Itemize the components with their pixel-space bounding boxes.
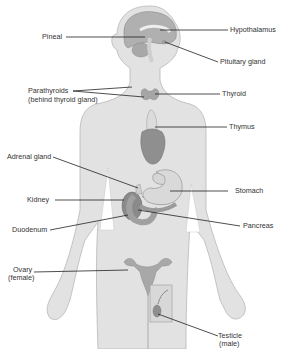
body-illustration xyxy=(0,0,287,349)
label-adrenal-gland: Adrenal gland xyxy=(7,153,51,161)
label-testicle-note: (male) xyxy=(219,340,239,348)
label-stomach: Stomach xyxy=(235,187,263,195)
label-parathyroids-note: (behind thyroid gland) xyxy=(28,96,98,104)
body-silhouette xyxy=(47,6,245,349)
endocrine-diagram: Pineal Hypothalamus Pituitary gland Para… xyxy=(0,0,287,349)
testicle-shape xyxy=(153,305,161,317)
label-kidney: Kidney xyxy=(27,196,49,204)
label-hypothalamus: Hypothalamus xyxy=(230,26,276,34)
label-thyroid: Thyroid xyxy=(222,90,246,98)
male-inset-box xyxy=(150,285,172,322)
label-thymus: Thymus xyxy=(229,123,255,131)
label-pituitary-gland: Pituitary gland xyxy=(220,58,266,66)
label-parathyroids: Parathyroids xyxy=(28,87,68,95)
label-duodenum: Duodenum xyxy=(12,226,47,234)
label-ovary-note: (female) xyxy=(8,274,34,282)
label-pancreas: Pancreas xyxy=(243,222,273,230)
label-pineal: Pineal xyxy=(42,33,62,41)
